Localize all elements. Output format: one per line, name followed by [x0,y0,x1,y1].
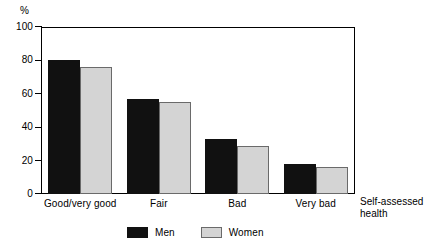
y-axis: 020406080100 [0,0,33,246]
y-axis-tick [35,93,42,94]
legend-swatch-icon [201,227,222,238]
y-axis-tick [35,193,42,194]
bar-group [284,27,348,194]
x-axis-title-line-1: Self-assessed [360,196,429,208]
y-axis-tick [35,160,42,161]
bar-women[interactable] [159,102,191,194]
bar-women[interactable] [237,146,269,194]
legend-label: Women [229,227,264,238]
y-axis-tick [35,127,42,128]
y-axis-tick [35,26,42,27]
x-axis-category-labels: Good/very goodFairBadVery bad [41,198,355,214]
bar-men[interactable] [48,60,80,194]
bar-men[interactable] [284,164,316,194]
bar-men[interactable] [205,139,237,194]
y-axis-tick-label: 40 [0,122,33,132]
x-axis-category-label: Very bad [277,198,356,210]
y-axis-tick-label: 20 [0,156,33,166]
y-axis-tick-label: 100 [0,22,33,32]
legend-swatch-icon [127,227,148,238]
legend: MenWomen [127,225,290,239]
bar-men[interactable] [127,99,159,194]
bar-women[interactable] [316,167,348,194]
y-axis-tick [35,60,42,61]
bars-layer [41,27,355,194]
x-axis-category-label: Bad [198,198,277,210]
x-axis-category-label: Fair [120,198,199,210]
legend-label: Men [155,227,175,238]
legend-item-women[interactable]: Women [201,227,264,238]
x-axis-category-label: Good/very good [41,198,120,210]
y-axis-tick-label: 60 [0,89,33,99]
y-axis-tick-label: 0 [0,189,33,199]
y-axis-tick-label: 80 [0,55,33,65]
x-axis-title-line-2: health [360,208,429,220]
bar-group [127,27,191,194]
legend-item-men[interactable]: Men [127,227,175,238]
bar-chart-figure: % 020406080100 Good/very goodFairBadVery… [0,0,429,246]
bar-group [48,27,112,194]
x-axis-title: Self-assessed health [360,196,429,219]
bar-women[interactable] [80,67,112,194]
bar-group [205,27,269,194]
